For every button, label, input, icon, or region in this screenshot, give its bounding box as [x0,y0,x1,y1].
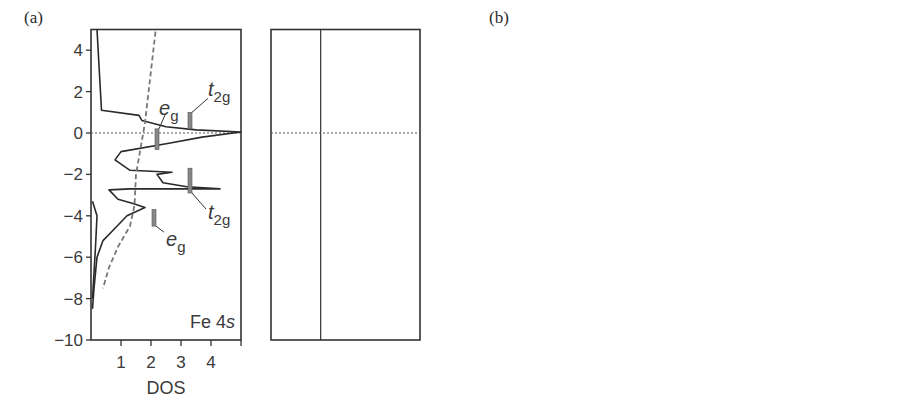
y-tick-label: −2 [64,165,83,184]
panel-a-label: (a) [24,8,43,28]
orbital-bar [155,129,159,150]
y-tick-label: 4 [74,41,83,60]
x-axis-title: DOS [146,378,185,398]
y-tick-label: −6 [64,248,83,267]
curve-fe-4s-dos [93,30,242,309]
x-tick-label: 4 [206,353,215,372]
y-tick-label: 0 [74,124,83,143]
orbital-label-t2g: t2g [208,78,230,105]
x-tick-label: 3 [176,353,185,372]
leader-line [192,98,208,112]
orbital-label-eg: eg [166,228,185,255]
y-tick-label: −10 [54,331,83,350]
y-tick-label: −4 [64,207,83,226]
y-tick-label: −8 [64,290,83,309]
plot-frame [271,30,420,341]
leader-line [192,193,206,209]
orbital-bar [188,112,192,129]
plot-frame [91,30,241,341]
curve-free-electron-like [103,32,156,289]
y-tick-label: 2 [74,83,83,102]
x-tick-label: 1 [116,353,125,372]
orbital-bar [152,210,156,227]
panel-title: Fe 4s [190,312,235,332]
figure-canvas: 420−2−4−6−8−101234DOSFe 4segt2gt2geg [0,0,920,418]
panel-b-label: (b) [489,8,509,28]
orbital-label-eg: eg [159,97,178,124]
orbital-label-t2g: t2g [208,201,230,228]
orbital-bar [188,168,192,193]
x-tick-label: 2 [146,353,155,372]
leader-line [156,226,164,232]
